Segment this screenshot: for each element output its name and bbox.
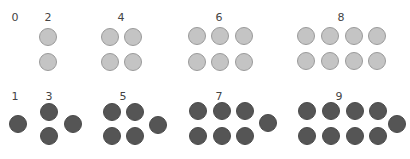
dot-icon — [125, 29, 142, 46]
number-group-3: 3 — [41, 90, 82, 145]
dot-icon — [41, 104, 58, 121]
dot-icon — [323, 128, 340, 145]
dot-icon — [150, 117, 167, 134]
dot-icon — [102, 54, 119, 71]
number-label: 6 — [216, 11, 223, 24]
dot-icon — [212, 54, 229, 71]
dot-icon — [299, 128, 316, 145]
dot-icon — [347, 103, 364, 120]
number-label: 5 — [120, 90, 127, 103]
number-group-1: 1 — [10, 90, 27, 133]
dot-icon — [237, 128, 254, 145]
dot-icon — [190, 128, 207, 145]
diagram-svg: 0246813579 — [0, 0, 410, 159]
dot-icon — [102, 29, 119, 46]
dot-icon — [322, 53, 339, 70]
dot-icon — [369, 28, 386, 45]
dot-icon — [189, 54, 206, 71]
dot-icon — [189, 28, 206, 45]
number-group-4: 4 — [102, 11, 142, 71]
number-group-2: 2 — [40, 11, 57, 71]
number-label: 1 — [12, 90, 19, 103]
number-label: 7 — [216, 90, 223, 103]
dot-icon — [299, 103, 316, 120]
dot-icon — [298, 28, 315, 45]
dot-icon — [125, 54, 142, 71]
dot-icon — [322, 28, 339, 45]
number-label: 0 — [12, 11, 19, 24]
dot-icon — [40, 54, 57, 71]
number-group-7: 7 — [190, 90, 277, 145]
dot-icon — [346, 28, 363, 45]
dot-icon — [389, 116, 406, 133]
dot-icon — [104, 128, 121, 145]
number-label: 4 — [118, 11, 125, 24]
number-group-9: 9 — [299, 90, 406, 145]
dot-icon — [370, 103, 387, 120]
dot-icon — [237, 103, 254, 120]
dot-icon — [190, 103, 207, 120]
dot-icon — [41, 128, 58, 145]
dot-icon — [323, 103, 340, 120]
dot-icon — [40, 29, 57, 46]
dot-icon — [214, 103, 231, 120]
dot-icon — [65, 116, 82, 133]
even-odd-dot-diagram: 0246813579 — [0, 0, 410, 159]
dot-icon — [298, 53, 315, 70]
dot-icon — [236, 54, 253, 71]
dot-icon — [260, 115, 277, 132]
dot-icon — [214, 128, 231, 145]
number-label: 8 — [338, 11, 345, 24]
dot-icon — [236, 28, 253, 45]
dot-icon — [369, 53, 386, 70]
dot-icon — [127, 128, 144, 145]
odd-numbers-row: 13579 — [10, 90, 406, 145]
dot-icon — [10, 116, 27, 133]
dot-icon — [347, 128, 364, 145]
dot-icon — [346, 53, 363, 70]
number-label: 2 — [45, 11, 52, 24]
even-numbers-row: 02468 — [12, 11, 386, 71]
dot-icon — [370, 128, 387, 145]
number-label: 3 — [46, 90, 53, 103]
number-group-6: 6 — [189, 11, 253, 71]
number-group-5: 5 — [104, 90, 167, 145]
dot-icon — [212, 28, 229, 45]
dot-icon — [127, 104, 144, 121]
number-group-8: 8 — [298, 11, 386, 70]
number-label: 9 — [336, 90, 343, 103]
dot-icon — [104, 104, 121, 121]
number-group-0: 0 — [12, 11, 19, 24]
